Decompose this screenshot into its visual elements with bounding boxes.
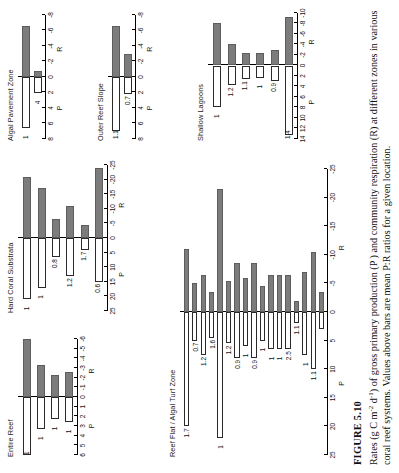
respiration-bar bbox=[319, 292, 324, 312]
panel-hard-coral-substrata: Hard Coral Substrata 110.81.21.70.625201… bbox=[6, 163, 124, 313]
production-bar bbox=[51, 397, 59, 419]
pr-ratio-label: 1.7 bbox=[183, 429, 190, 438]
axis-tick-label: -3 bbox=[79, 365, 86, 371]
production-bar bbox=[37, 397, 45, 429]
figure-caption: FIGURE 5.10 Rates (g C m-2 d-1) of gross… bbox=[352, 10, 393, 465]
production-bar bbox=[209, 312, 214, 338]
pr-ratio-label: 1 bbox=[23, 307, 30, 311]
axis-tick-label: 2 bbox=[137, 91, 144, 95]
axis-tick bbox=[132, 92, 135, 93]
production-bar bbox=[95, 238, 103, 282]
axis-tick-label: -4 bbox=[79, 356, 86, 362]
axis-tick-label: 0 bbox=[299, 64, 306, 68]
pr-ratio-label: 4 bbox=[34, 101, 41, 105]
axis-tick-label: 0 bbox=[137, 75, 144, 79]
panel-shallow-lagoons: Shallow Lagoons 11.21.110.91.41412108642… bbox=[196, 11, 314, 141]
axis-tick-label: 4 bbox=[137, 106, 144, 110]
axis-tick bbox=[74, 386, 77, 387]
axis-tick-label: 10 bbox=[109, 264, 116, 271]
plot-area-shallow-lagoons: 11.21.110.91.414121086420-2-4-6-8-10PR bbox=[208, 13, 310, 139]
panel-entire-reef: Entire Reef 11116543210-1-2-3-4-5-6PR bbox=[6, 337, 94, 457]
respiration-bar bbox=[201, 275, 206, 312]
plot-area-entire-reef: 11116543210-1-2-3-4-5-6PR bbox=[18, 339, 90, 455]
production-bar bbox=[277, 312, 282, 349]
respiration-bar bbox=[242, 53, 250, 65]
pr-ratio-label: 1.2 bbox=[227, 88, 234, 97]
respiration-bar bbox=[268, 275, 273, 312]
axis-tick bbox=[132, 76, 135, 77]
axis-tick bbox=[132, 45, 135, 46]
respiration-bar bbox=[184, 249, 189, 312]
production-bar bbox=[268, 312, 273, 349]
axis-tick bbox=[324, 425, 327, 426]
axis-tick-label: 5 bbox=[79, 444, 86, 448]
axis-label-production: P bbox=[338, 381, 345, 386]
plot-area-outer-reef-slope: 1.10.786420-2-4-6-8PR bbox=[108, 15, 148, 139]
zero-axis-line bbox=[208, 65, 297, 66]
axis-tick bbox=[324, 225, 327, 226]
panel-title-algal-pavement-zone: Algal Pavement Zone bbox=[6, 69, 15, 141]
axis-tick bbox=[74, 367, 77, 368]
respiration-bar bbox=[243, 278, 248, 312]
axis-tick-label: 6 bbox=[79, 453, 86, 457]
pr-ratio-label: 1 bbox=[217, 445, 224, 449]
axis-label-production: P bbox=[308, 100, 315, 105]
axis-tick bbox=[74, 396, 77, 397]
axis-tick bbox=[74, 425, 77, 426]
pr-ratio-label: 1 bbox=[268, 357, 275, 361]
axis-tick-label: 5 bbox=[329, 339, 336, 343]
axis-tick-label: 15 bbox=[329, 394, 336, 401]
axis-tick bbox=[42, 61, 45, 62]
axis-tick bbox=[324, 197, 327, 198]
axis-tick-label: 6 bbox=[47, 122, 54, 126]
respiration-bar bbox=[285, 275, 290, 312]
axis-label-production: P bbox=[56, 106, 63, 111]
axis-tick-label: 8 bbox=[137, 137, 144, 141]
axis-label-respiration: R bbox=[338, 245, 345, 250]
axis-tick-label: 14 bbox=[299, 135, 306, 142]
axis-tick-label: 0 bbox=[329, 310, 336, 314]
respiration-bar bbox=[234, 263, 239, 312]
panel-title-shallow-lagoons: Shallow Lagoons bbox=[196, 84, 205, 141]
panel-title-outer-reef-slope: Outer Reef Slope bbox=[96, 83, 105, 141]
production-bar bbox=[228, 66, 236, 86]
pr-ratio-label: 0.7 bbox=[192, 343, 199, 352]
respiration-bar bbox=[192, 283, 197, 312]
axis-tick bbox=[132, 30, 135, 31]
axis-tick-label: 0 bbox=[79, 395, 86, 399]
plot-area-hard-coral-substrata: 110.81.21.70.62520151050-5-10-15-20-25PR bbox=[18, 165, 120, 311]
pr-ratio-label: 0.9 bbox=[251, 360, 258, 369]
zero-axis-line bbox=[18, 237, 107, 238]
axis-tick-label: 25 bbox=[109, 307, 116, 314]
axis-tick-label: -25 bbox=[329, 164, 336, 173]
axis-label-production: P bbox=[88, 424, 95, 429]
axis-tick-label: 3 bbox=[79, 424, 86, 428]
value-axis bbox=[45, 15, 46, 139]
value-axis bbox=[327, 169, 328, 455]
production-bar bbox=[22, 77, 29, 128]
axis-tick-label: -6 bbox=[79, 336, 86, 342]
production-bar bbox=[34, 77, 41, 93]
value-axis bbox=[77, 339, 78, 455]
axis-tick bbox=[294, 23, 297, 24]
pr-ratio-label: 1.2 bbox=[200, 357, 207, 366]
value-axis bbox=[107, 165, 108, 311]
axis-tick bbox=[42, 45, 45, 46]
respiration-bar bbox=[37, 365, 45, 397]
axis-tick bbox=[104, 310, 107, 311]
axis-tick bbox=[104, 208, 107, 209]
axis-tick-label: -15 bbox=[109, 190, 116, 199]
axis-tick bbox=[42, 138, 45, 139]
caption-sup-2: -1 bbox=[367, 392, 375, 398]
production-bar bbox=[242, 66, 250, 80]
axis-tick bbox=[294, 96, 297, 97]
axis-tick bbox=[324, 340, 327, 341]
pr-ratio-label: 1.1 bbox=[310, 371, 317, 380]
respiration-bar bbox=[34, 71, 41, 77]
respiration-bar bbox=[302, 272, 307, 312]
axis-tick bbox=[74, 415, 77, 416]
axis-tick-label: 10 bbox=[329, 366, 336, 373]
respiration-bar bbox=[226, 281, 231, 312]
pr-ratio-label: 1.4 bbox=[284, 130, 291, 139]
production-bar bbox=[38, 238, 46, 288]
